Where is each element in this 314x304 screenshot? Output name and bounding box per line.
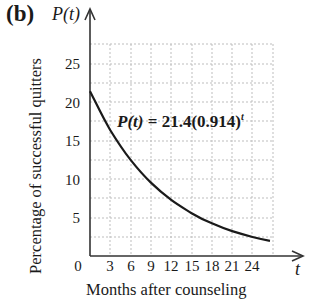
- equation-rhs: 21.4(0.914): [162, 112, 241, 131]
- equation-equals: =: [148, 112, 158, 131]
- y-tick-20: 20: [58, 95, 80, 112]
- equation-label: P(t) = 21.4(0.914)t: [117, 111, 244, 132]
- y-tick-25: 25: [58, 56, 80, 73]
- y-tick-5: 5: [58, 210, 80, 227]
- gridlines: [90, 44, 273, 256]
- y-tick-15: 15: [58, 133, 80, 150]
- x-axis-title: Months after counseling: [86, 280, 246, 300]
- y-axis-variable: P(t): [52, 4, 80, 25]
- axes: [85, 9, 303, 261]
- y-axis-title: Percentage of successful quitters: [26, 46, 46, 286]
- equation-lhs: P(t): [117, 112, 143, 131]
- equation-exponent: t: [241, 111, 244, 122]
- x-tick-24: 24: [240, 258, 264, 275]
- y-tick-10: 10: [58, 172, 80, 189]
- x-tick-0: 0: [66, 258, 90, 275]
- x-axis-variable: t: [295, 259, 300, 280]
- panel-label: (b): [6, 1, 34, 27]
